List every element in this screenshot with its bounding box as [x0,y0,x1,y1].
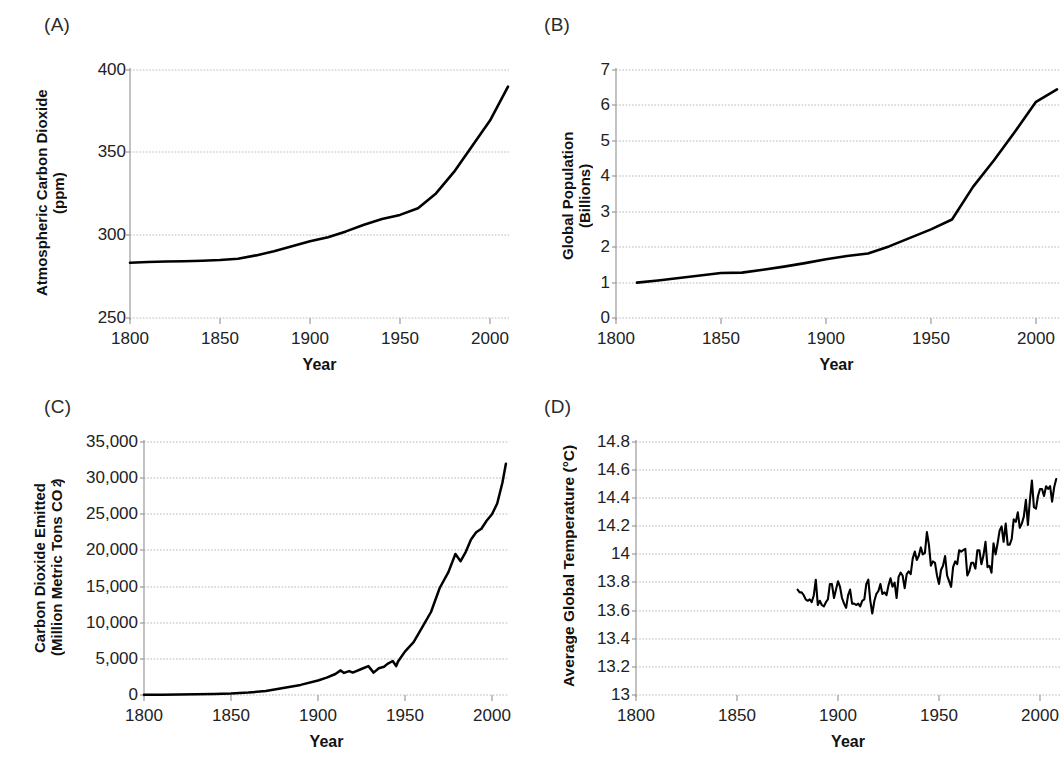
panel-c-xtick-1800: 1800 [125,706,163,726]
panel-d-axes [632,440,1040,701]
panel-a-xtick-1850: 1850 [201,329,239,349]
panel-c-data-line [144,464,506,695]
panel-b-axes [612,68,1036,324]
panel-a-xtick-1950: 1950 [381,329,419,349]
panel-b-data-line [637,89,1057,282]
panel-c-axes [140,440,492,701]
panel-a-data-line [130,87,508,263]
panel-a-x-axis-label: Year [130,356,509,374]
panel-d-x-axis-label: Year [636,733,1060,751]
four-panel-climate-figure: (A) Atmospheric Carbon Dioxide (ppm) 400… [0,0,1060,783]
panel-b-x-axis-label: Year [616,356,1057,374]
panel-a-axes [126,68,490,324]
panel-c-xtick-2000: 2000 [473,706,511,726]
panel-c-plot [0,391,530,783]
panel-a-xtick-1900: 1900 [291,329,329,349]
panel-d-xtick-1900: 1900 [819,706,857,726]
panel-b-xtick-1800: 1800 [597,329,635,349]
panel-a-xtick-1800: 1800 [111,329,149,349]
panel-d-xtick-1950: 1950 [920,706,958,726]
panel-c-xtick-1900: 1900 [299,706,337,726]
panel-c-xtick-1850: 1850 [212,706,250,726]
panel-b-xtick-1950: 1950 [912,329,950,349]
panel-a-gridlines [130,70,509,318]
panel-b: (B) Global Population (Billions) 7 6 5 4… [530,0,1060,391]
panel-c-xtick-1950: 1950 [386,706,424,726]
panel-b-xtick-2000: 2000 [1017,329,1055,349]
panel-d-plot [530,391,1060,783]
panel-d: (D) Average Global Temperature (°C) 14.8… [530,391,1060,783]
panel-a-xtick-2000: 2000 [471,329,509,349]
panel-c-x-axis-label: Year [144,733,509,751]
panel-b-xtick-1900: 1900 [807,329,845,349]
panel-c: (C) Carbon Dioxide Emitted (Million Metr… [0,391,530,783]
panel-b-xtick-1850: 1850 [702,329,740,349]
panel-d-xtick-2000: 2000 [1021,706,1059,726]
panel-d-data-line [798,479,1057,613]
panel-a: (A) Atmospheric Carbon Dioxide (ppm) 400… [0,0,530,391]
panel-a-plot [0,0,530,391]
panel-d-xtick-1800: 1800 [617,706,655,726]
panel-d-xtick-1850: 1850 [718,706,756,726]
panel-c-gridlines [144,442,509,695]
panel-d-gridlines [636,442,1060,695]
panel-b-gridlines [616,70,1060,318]
